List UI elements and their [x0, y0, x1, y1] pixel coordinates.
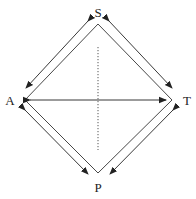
arrow-a-p: [25, 110, 88, 174]
arrow-t-p: [110, 110, 173, 174]
node-label-a: A: [5, 94, 14, 107]
arrow-s-a: [26, 21, 88, 88]
parallel-arrows: [25, 21, 173, 174]
diagram-canvas: S A T P: [0, 0, 196, 199]
edge-a-p: [25, 100, 98, 173]
node-label-s: S: [94, 6, 101, 19]
diagram-svg: [0, 0, 196, 199]
edge-s-t: [98, 24, 172, 100]
edge-s-a: [25, 24, 98, 100]
diamond-outline: [25, 24, 172, 173]
arrow-s-t: [109, 21, 172, 88]
edge-t-p: [98, 100, 172, 173]
node-label-p: P: [94, 181, 101, 194]
node-label-t: T: [183, 94, 191, 107]
